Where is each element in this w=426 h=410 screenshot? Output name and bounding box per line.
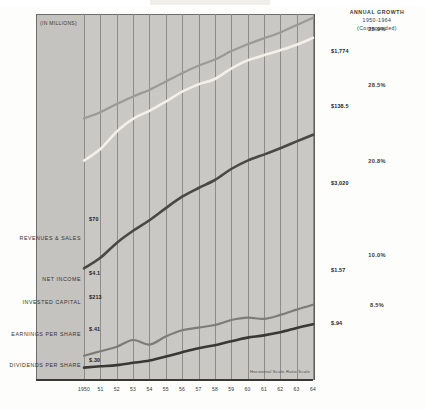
end-value-1: $138.5 xyxy=(331,103,349,109)
series-label-2: INVESTED CAPITAL xyxy=(0,299,81,305)
year-tick-61: 61 xyxy=(261,386,267,392)
growth-pct-4: 8.5% xyxy=(334,302,420,308)
year-tick-64: 64 xyxy=(310,386,316,392)
year-tick-58: 58 xyxy=(212,386,218,392)
growth-pct-1: 28.5% xyxy=(334,82,420,88)
year-tick-1950: 1950 xyxy=(78,386,90,392)
scale-note: Horizontal Scale Ratio Scale xyxy=(250,369,310,374)
year-tick-52: 52 xyxy=(114,386,120,392)
end-value-2: $3,020 xyxy=(331,180,349,186)
year-tick-56: 56 xyxy=(179,386,185,392)
series-label-1: NET INCOME xyxy=(0,276,81,282)
year-tick-54: 54 xyxy=(146,386,152,392)
series-lines xyxy=(0,0,426,410)
start-value-4: $.30 xyxy=(89,357,100,363)
growth-pct-2: 20.8% xyxy=(334,158,420,164)
start-value-2: $213 xyxy=(89,294,102,300)
series-label-0: REVENUES & SALES xyxy=(0,235,81,241)
year-tick-51: 51 xyxy=(97,386,103,392)
growth-pct-3: 10.0% xyxy=(334,252,420,258)
series-line-revenues-sales xyxy=(84,38,313,161)
start-value-0: $70 xyxy=(89,216,99,222)
year-tick-62: 62 xyxy=(277,386,283,392)
start-value-3: $.41 xyxy=(89,326,100,332)
year-tick-60: 60 xyxy=(245,386,251,392)
end-value-3: $1.57 xyxy=(331,267,346,273)
series-line-net-income xyxy=(84,135,313,269)
start-value-1: $4.1 xyxy=(89,270,100,276)
year-tick-53: 53 xyxy=(130,386,136,392)
series-line-invested-capital xyxy=(84,18,313,119)
year-tick-57: 57 xyxy=(196,386,202,392)
year-tick-63: 63 xyxy=(294,386,300,392)
year-tick-55: 55 xyxy=(163,386,169,392)
series-label-3: EARNINGS PER SHARE xyxy=(0,331,81,337)
end-value-4: $.94 xyxy=(331,320,342,326)
chart-page: (IN MILLIONS) ANNUAL GROWTH 1950-1964 (C… xyxy=(0,0,426,410)
growth-pct-0: 25.9% xyxy=(334,26,420,32)
year-tick-59: 59 xyxy=(228,386,234,392)
end-value-0: $1,774 xyxy=(331,48,349,54)
series-label-4: DIVIDENDS PER SHARE xyxy=(0,362,81,368)
